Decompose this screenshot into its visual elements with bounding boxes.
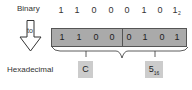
binary-label: Binary xyxy=(17,4,40,13)
nibble-bit: 0 xyxy=(124,32,134,42)
nibble-bit: 1 xyxy=(57,32,67,42)
grouping-braces xyxy=(50,46,190,60)
down-arrow-icon xyxy=(19,20,49,52)
nibble-bit: 0 xyxy=(157,32,167,42)
nibble-bit: 1 xyxy=(74,32,84,42)
binary-digit: 0 xyxy=(106,5,116,15)
hex-subscript: 16 xyxy=(154,70,160,76)
binary-digit: 1 xyxy=(139,5,149,15)
binary-digit: 1 xyxy=(56,5,66,15)
to-label: to xyxy=(27,27,33,34)
binary-subscript: 2 xyxy=(178,10,181,16)
nibble-bit: 1 xyxy=(172,32,182,42)
binary-digit: 0 xyxy=(155,5,165,15)
nibble-bit: 0 xyxy=(107,32,117,42)
nibble-bit: 1 xyxy=(140,32,150,42)
binary-digit: 0 xyxy=(122,5,132,15)
hex-digit-low: 516 xyxy=(145,61,163,78)
binary-digit: 0 xyxy=(89,5,99,15)
hex-digit: C xyxy=(82,64,89,74)
nibble-bit: 0 xyxy=(91,32,101,42)
binary-digit: 1 xyxy=(72,5,82,15)
hex-digit-high: C xyxy=(78,61,93,78)
hexadecimal-label: Hexadecimal xyxy=(7,65,53,74)
